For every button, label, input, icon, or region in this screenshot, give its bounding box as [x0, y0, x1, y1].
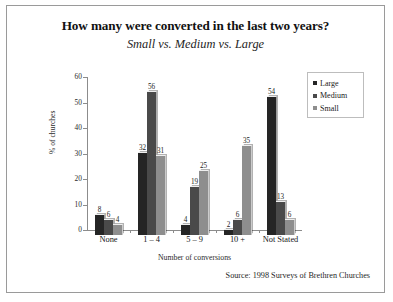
bar-value-label: 4 — [116, 216, 120, 224]
y-axis-line — [87, 77, 88, 230]
bar-group: 2635 — [224, 82, 251, 235]
bar-value-label: 4 — [184, 216, 188, 224]
legend-label: Large — [320, 79, 339, 88]
x-category-label: None — [99, 235, 117, 244]
x-category-label: 10 + — [230, 235, 245, 244]
y-tick — [83, 128, 87, 129]
y-tick — [83, 154, 87, 155]
plot-area: 0102030405060 86432563141925263554136 No… — [87, 77, 302, 235]
x-tick — [130, 230, 131, 233]
source-note: Source: 1998 Surveys of Brethren Churche… — [226, 271, 370, 280]
bar-value-label: 35 — [243, 137, 250, 145]
bar-value-label: 31 — [157, 147, 164, 155]
x-category-label: 5 – 9 — [186, 235, 203, 244]
chart-title: How many were converted in the last two … — [7, 18, 384, 34]
y-tick-label: 50 — [75, 98, 82, 107]
x-tick — [216, 230, 217, 233]
y-tick-label: 0 — [78, 225, 82, 234]
y-tick-label: 40 — [75, 123, 82, 132]
bar-value-label: 13 — [277, 193, 284, 201]
bar-value-label: 6 — [236, 211, 240, 219]
legend-swatch-icon — [313, 94, 317, 98]
legend-swatch-icon — [313, 81, 317, 85]
y-tick — [83, 77, 87, 78]
bar-small: 35 — [242, 145, 252, 235]
y-tick-label: 60 — [75, 72, 82, 81]
bar-value-label: 56 — [148, 83, 155, 91]
bar-group: 54136 — [267, 82, 294, 235]
legend-label: Small — [320, 104, 339, 113]
bar-value-label: 6 — [107, 211, 111, 219]
x-tick — [259, 230, 260, 233]
bar-value-label: 32 — [139, 144, 146, 152]
chart-figure: How many were converted in the last two … — [6, 5, 385, 293]
bar-group: 325631 — [138, 82, 165, 235]
bar-small: 31 — [156, 155, 166, 235]
chart-legend: LargeMediumSmall — [307, 72, 364, 118]
bar-value-label: 6 — [288, 211, 292, 219]
bar-small: 6 — [285, 219, 295, 235]
legend-item-large[interactable]: Large — [313, 79, 359, 88]
bar-value-label: 19 — [191, 178, 198, 186]
bar-small: 4 — [113, 224, 123, 235]
bar-value-label: 25 — [200, 162, 207, 170]
y-tick — [83, 230, 87, 231]
y-tick — [83, 205, 87, 206]
bar-group: 864 — [95, 82, 122, 235]
x-category-label: 1 – 4 — [143, 235, 160, 244]
bar-value-label: 2 — [227, 221, 231, 229]
bar-value-label: 54 — [268, 88, 275, 96]
legend-label: Medium — [320, 91, 347, 100]
legend-item-medium[interactable]: Medium — [313, 91, 359, 100]
y-tick-label: 30 — [75, 149, 82, 158]
x-tick — [173, 230, 174, 233]
y-tick-label: 20 — [75, 174, 82, 183]
bar-group: 41925 — [181, 82, 208, 235]
y-tick — [83, 103, 87, 104]
x-category-label: Not Stated — [263, 235, 299, 244]
bar-value-label: 8 — [98, 206, 102, 214]
x-axis-title: Number of conversions — [87, 253, 302, 262]
legend-swatch-icon — [313, 106, 317, 110]
y-axis-title: % of churches — [48, 111, 57, 154]
y-tick — [83, 179, 87, 180]
legend-item-small[interactable]: Small — [313, 104, 359, 113]
y-tick-label: 10 — [75, 200, 82, 209]
chart-subtitle: Small vs. Medium vs. Large — [7, 37, 384, 52]
bar-small: 25 — [199, 170, 209, 235]
